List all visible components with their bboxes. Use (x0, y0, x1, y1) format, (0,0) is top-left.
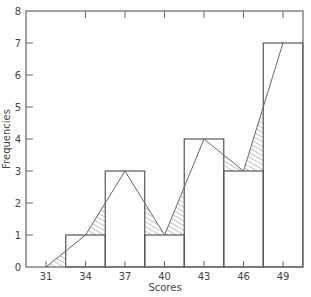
y-tick-label: 8 (15, 6, 21, 17)
y-tick-label: 0 (15, 262, 21, 273)
histogram-bar-37 (105, 171, 145, 267)
x-tick-label: 49 (277, 271, 290, 282)
histogram-bar-49 (263, 43, 303, 267)
histogram-bar-46 (224, 171, 264, 267)
x-tick-label: 31 (40, 271, 53, 282)
x-axis-title: Scores (148, 282, 181, 293)
y-axis-title: Frequencies (1, 109, 12, 169)
y-tick-label: 6 (15, 70, 21, 81)
x-tick-label: 34 (79, 271, 92, 282)
y-tick-label: 1 (15, 230, 21, 241)
y-tick-label: 7 (15, 38, 21, 49)
x-tick-label: 46 (237, 271, 250, 282)
y-tick-label: 5 (15, 102, 21, 113)
y-tick-label: 4 (15, 134, 21, 145)
y-tick-label: 2 (15, 198, 21, 209)
x-tick-label: 37 (119, 271, 132, 282)
histogram-bar-43 (184, 139, 224, 267)
x-tick-label: 43 (198, 271, 211, 282)
y-tick-label: 3 (15, 166, 21, 177)
x-tick-label: 40 (158, 271, 171, 282)
histogram-chart: 012345678 31343740434649 Scores Frequenc… (0, 0, 311, 297)
